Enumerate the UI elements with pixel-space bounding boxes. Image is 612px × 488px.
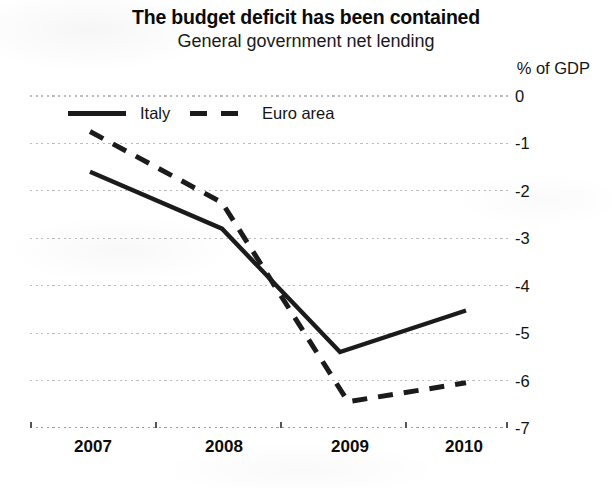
x-tick-2007: 2007 (74, 437, 112, 457)
y-tick-4: -4 (515, 277, 530, 296)
y-tick-6: -6 (515, 372, 530, 391)
y-tick-7: -7 (515, 419, 530, 438)
legend-solid-line-icon (68, 111, 126, 116)
x-tick-2009: 2009 (331, 437, 369, 457)
x-tick-2008: 2008 (205, 437, 243, 457)
legend-item-euro-area: Euro area (190, 103, 334, 123)
series-line-italy (90, 172, 466, 352)
y-axis-tick-labels: 0 -1 -2 -3 -4 -5 -6 -7 (515, 0, 585, 488)
legend-item-italy: Italy (68, 103, 170, 123)
x-axis-ticks (31, 422, 507, 428)
plot-area (30, 96, 508, 428)
x-axis-tick-labels: 2007 2008 2009 2010 (0, 437, 612, 467)
y-tick-2: -2 (515, 182, 530, 201)
gridlines (30, 96, 508, 428)
legend-dashed-line-icon (190, 111, 248, 116)
x-tick-2010: 2010 (445, 437, 483, 457)
legend-label-euro-area: Euro area (262, 105, 334, 122)
y-tick-3: -3 (515, 229, 530, 248)
chart-legend: Italy Euro area (0, 103, 612, 125)
y-tick-1: -1 (515, 134, 530, 153)
y-tick-5: -5 (515, 324, 530, 343)
series-line-euro-area (90, 132, 466, 402)
legend-label-italy: Italy (140, 105, 170, 122)
chart-figure: The budget deficit has been contained Ge… (0, 0, 612, 488)
